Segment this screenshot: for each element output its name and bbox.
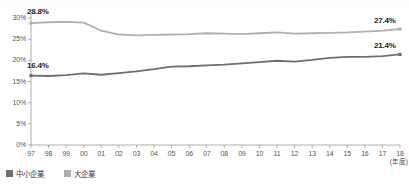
- legend-item[interactable]: 中小企業: [6, 168, 44, 179]
- x-axis-tick-label: 16: [357, 150, 373, 157]
- chart-series: [29, 21, 401, 77]
- y-axis-tick-label: 10%: [0, 99, 26, 106]
- x-axis-tick-label: 15: [339, 150, 355, 157]
- legend-label: 大企業: [74, 168, 95, 179]
- label-sme-end: 21.4%: [374, 41, 396, 50]
- x-axis-tick-label: 11: [269, 150, 285, 157]
- x-axis-tick-label: 01: [93, 150, 109, 157]
- label-sme-start: 16.4%: [27, 61, 49, 70]
- x-axis-tick-label: 04: [146, 150, 162, 157]
- legend-swatch-icon: [64, 170, 71, 177]
- line-chart: 0%5%10%15%20%25%30% 97989900010203040506…: [0, 0, 409, 184]
- y-axis-tick-label: 20%: [0, 56, 26, 63]
- legend-item[interactable]: 大企業: [64, 168, 95, 179]
- x-axis-tick-label: 13: [304, 150, 320, 157]
- y-axis-tick-label: 25%: [0, 35, 26, 42]
- label-large-start: 28.8%: [27, 7, 49, 16]
- y-axis-tick-label: 15%: [0, 78, 26, 85]
- x-axis-tick-label: 12: [287, 150, 303, 157]
- x-axis-tick-label: 97: [23, 150, 39, 157]
- y-axis-tick-label: 0%: [0, 141, 26, 148]
- chart-legend: 中小企業大企業: [6, 168, 109, 179]
- x-axis-tick-label: 08: [216, 150, 232, 157]
- y-axis-tick-label: 30%: [0, 14, 26, 21]
- label-large-end: 27.4%: [374, 16, 396, 25]
- legend-swatch-icon: [6, 170, 13, 177]
- x-axis-tick-label: 05: [164, 150, 180, 157]
- x-axis-tick-label: 10: [251, 150, 267, 157]
- x-axis-tick-label: 03: [128, 150, 144, 157]
- x-axis-tick-label: 99: [58, 150, 74, 157]
- x-axis-tick-label: 00: [76, 150, 92, 157]
- x-axis-tick-label: 07: [199, 150, 215, 157]
- x-axis-unit-label: (年度): [390, 156, 408, 166]
- x-axis-tick-label: 06: [181, 150, 197, 157]
- x-axis-tick-label: 02: [111, 150, 127, 157]
- legend-label: 中小企業: [16, 168, 44, 179]
- x-axis-tick-label: 09: [234, 150, 250, 157]
- x-axis-tick-label: 98: [41, 150, 57, 157]
- x-axis-tick-label: 14: [322, 150, 338, 157]
- y-axis-tick-label: 5%: [0, 120, 26, 127]
- x-axis-tick-label: 17: [374, 150, 390, 157]
